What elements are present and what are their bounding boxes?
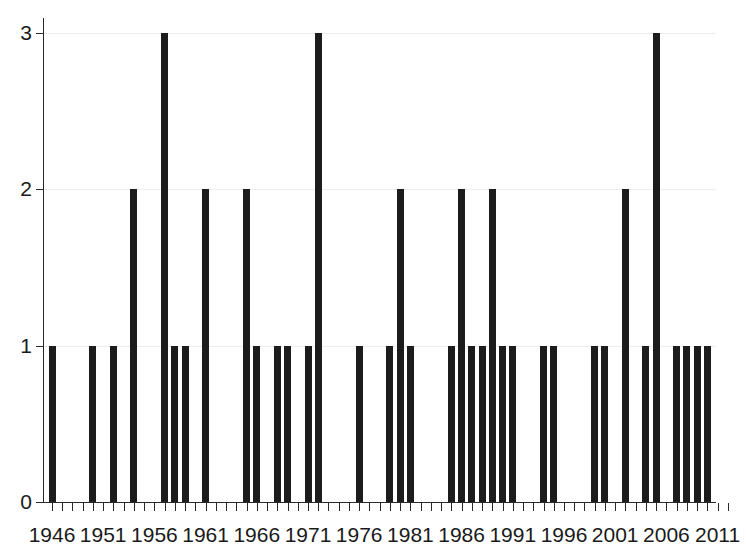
x-tick-mark (656, 503, 657, 511)
x-tick-label: 1956 (131, 524, 178, 545)
x-tick-mark (533, 503, 534, 511)
x-tick-mark (175, 503, 176, 511)
x-tick-mark (625, 503, 626, 511)
bar (458, 189, 465, 502)
bar (315, 33, 322, 503)
bars-layer (0, 18, 746, 502)
x-tick-mark (380, 503, 381, 511)
x-tick-label: 1976 (336, 524, 383, 545)
x-tick-mark (574, 503, 575, 511)
x-tick-mark (165, 503, 166, 511)
x-tick-mark (636, 503, 637, 511)
x-tick-mark (492, 503, 493, 511)
bar (448, 346, 455, 503)
x-tick-mark (195, 503, 196, 511)
x-tick-mark (93, 503, 94, 511)
x-tick-mark (718, 503, 719, 511)
bar (274, 346, 281, 503)
bar (673, 346, 680, 503)
bar (130, 189, 137, 502)
bar (509, 346, 516, 503)
x-tick-mark (677, 503, 678, 511)
bar (161, 33, 168, 503)
x-tick-label: 1966 (233, 524, 280, 545)
x-tick-mark (349, 503, 350, 511)
bar (622, 189, 629, 502)
x-tick-mark (62, 503, 63, 511)
bar (642, 346, 649, 503)
bar (489, 189, 496, 502)
x-tick-mark (441, 503, 442, 511)
x-tick-mark (431, 503, 432, 511)
x-tick-mark (257, 503, 258, 511)
x-tick-label: 1991 (489, 524, 536, 545)
x-tick-mark (462, 503, 463, 511)
x-tick-mark (247, 503, 248, 511)
x-tick-label: 1981 (387, 524, 434, 545)
x-tick-mark (83, 503, 84, 511)
y-tick-mark (36, 502, 44, 503)
x-tick-mark (236, 503, 237, 511)
x-tick-mark (318, 503, 319, 511)
bar (694, 346, 701, 503)
x-tick-mark (390, 503, 391, 511)
x-tick-mark (52, 503, 53, 511)
bar (683, 346, 690, 503)
x-tick-mark (605, 503, 606, 511)
x-tick-mark (687, 503, 688, 511)
bar (202, 189, 209, 502)
x-tick-mark (400, 503, 401, 511)
x-tick-label: 1951 (80, 524, 127, 545)
x-tick-mark (72, 503, 73, 511)
x-tick-mark (154, 503, 155, 511)
x-tick-label: 2001 (592, 524, 639, 545)
bar (601, 346, 608, 503)
x-tick-mark (298, 503, 299, 511)
x-tick-mark (134, 503, 135, 511)
x-tick-mark (697, 503, 698, 511)
x-tick-mark (216, 503, 217, 511)
bar (305, 346, 312, 503)
bar (182, 346, 189, 503)
x-tick-mark (206, 503, 207, 511)
bar (591, 346, 598, 503)
x-tick-mark (277, 503, 278, 511)
x-tick-label: 1961 (182, 524, 229, 545)
bar (468, 346, 475, 503)
x-tick-label: 2006 (643, 524, 690, 545)
x-tick-mark (328, 503, 329, 511)
x-tick-mark (359, 503, 360, 511)
bar (540, 346, 547, 503)
x-tick-label: 2011 (695, 524, 740, 545)
x-tick-mark (523, 503, 524, 511)
bar (479, 346, 486, 503)
bar (550, 346, 557, 503)
x-tick-mark (707, 503, 708, 511)
x-tick-mark (451, 503, 452, 511)
x-tick-mark (544, 503, 545, 511)
x-tick-label: 1996 (541, 524, 588, 545)
x-tick-mark (113, 503, 114, 511)
bar (356, 346, 363, 503)
x-tick-mark (564, 503, 565, 511)
bar (110, 346, 117, 503)
x-tick-mark (144, 503, 145, 511)
bar-chart: 0123 19461951195619611966197119761981198… (0, 0, 746, 560)
x-tick-label: 1946 (29, 524, 76, 545)
bar (284, 346, 291, 503)
x-tick-mark (103, 503, 104, 511)
x-tick-mark (185, 503, 186, 511)
x-tick-mark (288, 503, 289, 511)
x-tick-mark (410, 503, 411, 511)
x-tick-label: 1971 (285, 524, 332, 545)
x-tick-mark (584, 503, 585, 511)
bar (704, 346, 711, 503)
bar (89, 346, 96, 503)
bar (386, 346, 393, 503)
bar (397, 189, 404, 502)
x-tick-mark (267, 503, 268, 511)
x-tick-mark (728, 503, 729, 511)
x-tick-mark (513, 503, 514, 511)
x-tick-mark (421, 503, 422, 511)
bar (253, 346, 260, 503)
